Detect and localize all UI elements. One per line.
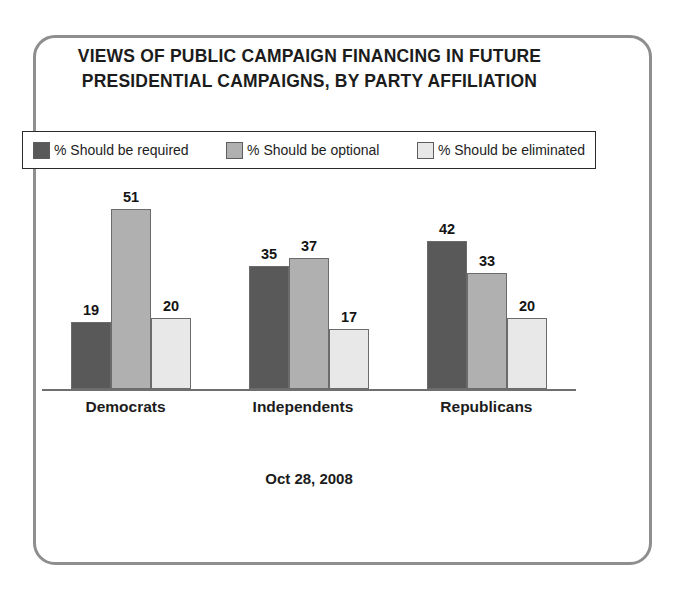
page-title-line-1: VIEWS OF PUBLIC CAMPAIGN FINANCING IN FU… [40,44,579,69]
bar[interactable] [71,322,111,389]
bar[interactable] [151,318,191,389]
legend-label-eliminated: % Should be eliminated [438,142,585,158]
bar-groups: 195120353717423320 [42,195,576,389]
legend-swatch-required [33,142,50,159]
bar-column: 17 [329,195,369,389]
page-title-line-2: PRESIDENTIAL CAMPAIGNS, BY PARTY AFFILIA… [40,69,579,94]
legend-label-required: % Should be required [54,142,189,158]
page-title: VIEWS OF PUBLIC CAMPAIGN FINANCING IN FU… [40,44,579,95]
bar-value-label: 19 [71,302,111,318]
x-axis-line [42,389,576,391]
bar-column: 42 [427,195,467,389]
bar[interactable] [111,209,151,389]
bar-group: 353717 [249,195,369,389]
bar[interactable] [507,318,547,389]
bar-column: 20 [507,195,547,389]
bar-value-label: 42 [427,221,467,237]
footer-date: Oct 28, 2008 [22,470,596,487]
bar[interactable] [289,258,329,389]
category-label: Independents [253,398,354,416]
category-label: Republicans [440,398,532,416]
bar-column: 20 [151,195,191,389]
bar-value-label: 35 [249,246,289,262]
bar-value-label: 20 [507,298,547,314]
bar-group: 423320 [427,195,547,389]
bar-value-label: 33 [467,253,507,269]
category-label: Democrats [85,398,165,416]
bar-value-label: 51 [111,189,151,205]
bar[interactable] [467,273,507,389]
legend-swatch-eliminated [417,142,434,159]
bar-value-label: 17 [329,309,369,325]
bar[interactable] [427,241,467,389]
bar-column: 33 [467,195,507,389]
bar-value-label: 20 [151,298,191,314]
legend-item-required[interactable]: % Should be required [33,142,189,159]
chart-page: { "frame": { "border_color": "#8e8e8e", … [0,0,688,611]
plot-area: 195120353717423320 [22,195,596,391]
legend-label-optional: % Should be optional [247,142,379,158]
bar-column: 37 [289,195,329,389]
chart-legend: % Should be required % Should be optiona… [22,131,596,169]
bar-group: 195120 [71,195,191,389]
legend-swatch-optional [226,142,243,159]
bar-column: 35 [249,195,289,389]
bar[interactable] [249,266,289,389]
category-axis-labels: DemocratsIndependentsRepublicans [42,398,576,416]
legend-item-optional[interactable]: % Should be optional [226,142,379,159]
legend-item-eliminated[interactable]: % Should be eliminated [417,142,585,159]
bar[interactable] [329,329,369,389]
bar-column: 51 [111,195,151,389]
bar-column: 19 [71,195,111,389]
bar-value-label: 37 [289,238,329,254]
